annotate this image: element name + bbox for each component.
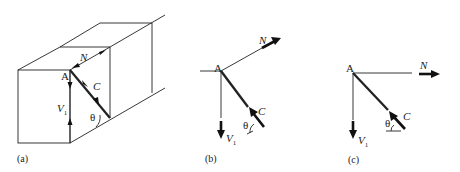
c-strut-line: [353, 73, 388, 110]
c-point-a-label: A: [346, 62, 354, 74]
c-theta-label: θ: [385, 117, 390, 129]
panel-c: A N C θ V1 (c): [346, 59, 440, 166]
v1-label: V1: [57, 102, 68, 117]
c-v1-label: V1: [358, 134, 369, 149]
panel-b-caption: (b): [205, 153, 217, 165]
b-strut-line: [221, 71, 248, 107]
b-v1-arrow-icon: [217, 130, 225, 139]
b-n-line: [221, 48, 262, 71]
b-point-a-label: A: [214, 62, 222, 74]
strut-force-diagram: A N C V1 θ (a) A N C θ V1 (b): [0, 0, 460, 172]
block-top-edge-left: [18, 47, 60, 70]
theta-arc: [96, 115, 100, 127]
beam-top-right-edge: [110, 15, 165, 47]
c-n-label: N: [419, 59, 428, 71]
v1-arrow-up-icon: [68, 118, 73, 125]
beam-top-back-edge: [60, 23, 100, 47]
n-arrow-left-icon: [72, 63, 80, 68]
beam-bottom-edge: [70, 88, 165, 143]
panel-b: A N C θ V1 (b): [200, 34, 281, 165]
b-c-label: C: [258, 105, 266, 117]
panel-a: A N C V1 θ (a): [17, 15, 165, 165]
v1-arrow-down-icon: [68, 82, 73, 89]
n-label: N: [79, 51, 88, 63]
b-n-label: N: [258, 34, 267, 46]
c-c-label: C: [403, 110, 411, 122]
theta-label: θ: [90, 111, 95, 123]
c-n-arrow-icon: [431, 70, 440, 78]
panel-a-caption: (a): [17, 153, 28, 165]
c-v1-arrow-icon: [349, 130, 357, 139]
b-theta-label: θ: [243, 119, 248, 131]
c-label: C: [93, 80, 101, 92]
b-v1-label: V1: [226, 132, 237, 147]
point-a-label: A: [61, 70, 69, 82]
c-theta-arc: [391, 125, 394, 131]
n-arrow-right-icon: [99, 50, 106, 55]
panel-c-caption: (c): [348, 154, 359, 166]
